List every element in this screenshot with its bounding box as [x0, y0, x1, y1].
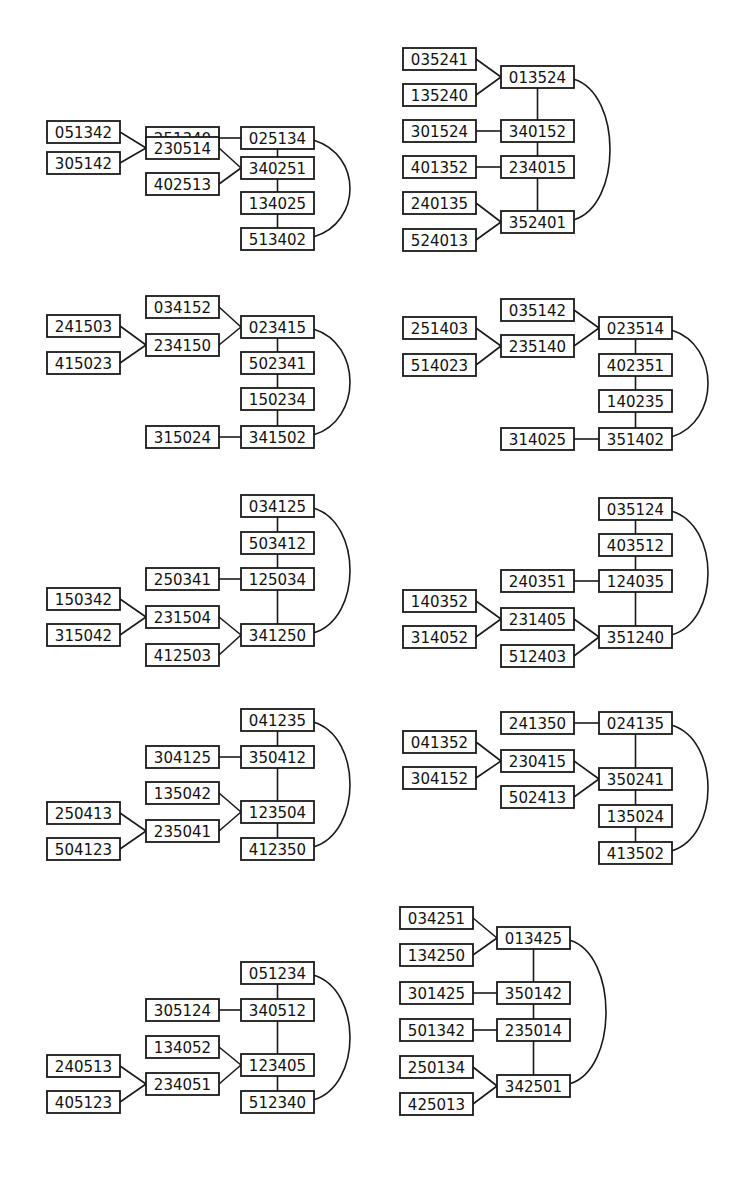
node-label: 412350: [249, 841, 306, 859]
node-box: 035142: [501, 299, 574, 321]
node-box: 231405: [501, 608, 574, 630]
node-box: 513402: [241, 228, 314, 250]
node-box: 315024: [146, 426, 219, 448]
node-label: 402513: [154, 176, 211, 194]
node-label: 350142: [505, 985, 562, 1003]
node-label: 405123: [55, 1094, 112, 1112]
node-label: 301524: [411, 123, 468, 141]
node-box: 314052: [403, 626, 476, 648]
edge-504123-235041: [120, 831, 146, 849]
node-label: 150234: [249, 391, 306, 409]
node-label: 301425: [408, 985, 465, 1003]
edge-234051-123405: [219, 1065, 241, 1084]
node-box: 240135: [403, 192, 476, 214]
node-box: 035241: [403, 48, 476, 70]
node-box: 340251: [241, 157, 314, 179]
edge-230415-350241: [574, 761, 599, 779]
permutation-graph-figure: 2513400251340513422305143051424025133402…: [0, 0, 740, 1181]
arc-edge: [574, 79, 610, 220]
node-label: 034251: [408, 910, 465, 928]
node-label: 501342: [408, 1022, 465, 1040]
graph-diagram-5: 0341255034122503411250341503422315043150…: [47, 495, 350, 666]
node-box: 041352: [403, 731, 476, 753]
node-label: 341250: [249, 627, 306, 645]
arc-edge: [672, 725, 708, 851]
node-label: 230415: [509, 753, 566, 771]
node-box: 304125: [146, 746, 219, 768]
node-label: 123504: [249, 804, 306, 822]
edge-240135-352401: [476, 203, 501, 222]
node-label: 235041: [154, 823, 211, 841]
node-box: 230514: [146, 137, 219, 159]
graph-diagram-1: 2513400251340513422305143051424025133402…: [47, 121, 350, 250]
node-box: 351402: [599, 428, 672, 450]
arc-edge: [314, 508, 350, 633]
edge-405123-234051: [120, 1084, 146, 1102]
node-label: 135024: [607, 808, 664, 826]
node-label: 351402: [607, 431, 664, 449]
edge-230514-340251: [219, 148, 241, 168]
node-box: 351240: [599, 626, 672, 648]
node-box: 135240: [403, 84, 476, 106]
node-label: 051342: [55, 124, 112, 142]
node-box: 502341: [241, 352, 314, 374]
node-label: 134250: [408, 947, 465, 965]
node-label: 235140: [509, 338, 566, 356]
node-box: 123504: [241, 801, 314, 823]
edge-514023-235140: [476, 346, 501, 365]
node-box: 140352: [403, 590, 476, 612]
node-box: 341250: [241, 624, 314, 646]
node-box: 352401: [501, 211, 574, 233]
node-box: 124035: [599, 570, 672, 592]
node-box: 134250: [400, 944, 473, 966]
node-label: 013524: [509, 69, 566, 87]
edge-035241-013524: [476, 59, 501, 77]
node-label: 502341: [249, 355, 306, 373]
edge-035142-023514: [574, 310, 599, 328]
graph-diagram-6: 0351244035122403511240351403522314053140…: [403, 498, 708, 667]
node-label: 234051: [154, 1076, 211, 1094]
node-label: 503412: [249, 535, 306, 553]
node-label: 315024: [154, 429, 211, 447]
graph-diagram-3: 0341520234152415032341504150235023411502…: [47, 296, 350, 448]
node-box: 235041: [146, 820, 219, 842]
node-box: 524013: [403, 229, 476, 251]
node-box: 013524: [501, 66, 574, 88]
node-label: 415023: [55, 355, 112, 373]
node-box: 405123: [47, 1091, 120, 1113]
node-box: 402351: [599, 354, 672, 376]
node-box: 503412: [241, 532, 314, 554]
edge-425013-342501: [473, 1086, 497, 1104]
node-label: 305124: [154, 1002, 211, 1020]
edge-305142-230514: [120, 148, 146, 163]
edge-034251-013425: [473, 918, 497, 938]
node-label: 425013: [408, 1096, 465, 1114]
node-box: 315042: [47, 624, 120, 646]
graph-diagram-8: 2413500241350413522304153041523502415024…: [403, 712, 708, 864]
node-label: 340152: [509, 123, 566, 141]
arc-edge: [314, 140, 350, 237]
node-label: 340512: [249, 1002, 306, 1020]
edge-140352-231405: [476, 601, 501, 619]
node-label: 251403: [411, 320, 468, 338]
node-box: 412503: [146, 644, 219, 666]
node-label: 241350: [509, 715, 566, 733]
edge-250134-342501: [473, 1067, 497, 1086]
edge-235140-023514: [574, 328, 599, 346]
edge-304152-230415: [476, 761, 501, 778]
node-label: 023415: [249, 319, 306, 337]
node-box: 234150: [146, 334, 219, 356]
node-box: 051342: [47, 121, 120, 143]
node-label: 512403: [509, 648, 566, 666]
node-box: 235140: [501, 335, 574, 357]
node-label: 401352: [411, 159, 468, 177]
node-box: 340512: [241, 999, 314, 1021]
graph-diagram-9: 0512343051243405121340522405131234052340…: [47, 962, 350, 1113]
node-label: 135042: [154, 785, 211, 803]
node-label: 340251: [249, 160, 306, 178]
node-label: 351240: [607, 629, 664, 647]
node-box: 502413: [501, 786, 574, 808]
node-label: 230514: [154, 140, 211, 158]
edge-241503-234150: [120, 326, 146, 345]
node-box: 250413: [47, 802, 120, 824]
